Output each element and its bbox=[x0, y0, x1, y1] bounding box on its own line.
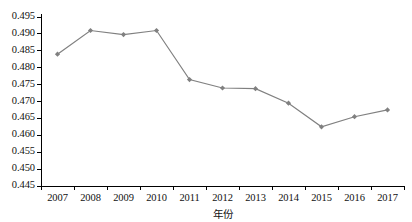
y-axis-tick-label: 0.465 bbox=[3, 111, 35, 122]
data-point-marker bbox=[352, 114, 357, 119]
y-axis-tick-label: 0.450 bbox=[3, 162, 35, 173]
line-chart: 0.4950.4900.4850.4800.4750.4700.4650.460… bbox=[0, 0, 412, 222]
x-axis-tick-marks bbox=[41, 186, 404, 190]
x-axis-tick-label: 2008 bbox=[74, 192, 107, 203]
y-axis-tick-label: 0.475 bbox=[3, 78, 35, 89]
data-point-marker bbox=[121, 32, 126, 37]
data-point-marker bbox=[253, 86, 258, 91]
x-axis-tick-label: 2014 bbox=[272, 192, 305, 203]
y-axis-tick-label: 0.460 bbox=[3, 128, 35, 139]
x-axis-tick-label: 2012 bbox=[206, 192, 239, 203]
axes-group bbox=[41, 14, 404, 186]
x-axis-title: 年份 bbox=[206, 206, 239, 221]
x-axis-tick-label: 2011 bbox=[173, 192, 206, 203]
data-point-markers bbox=[55, 28, 390, 130]
y-axis-tick-label: 0.455 bbox=[3, 145, 35, 156]
y-axis-tick-label: 0.485 bbox=[3, 44, 35, 55]
x-axis-tick-label: 2007 bbox=[41, 192, 74, 203]
x-axis-tick-label: 2016 bbox=[338, 192, 371, 203]
y-axis-tick-label: 0.490 bbox=[3, 27, 35, 38]
y-axis-tick-marks bbox=[37, 17, 41, 186]
x-axis-tick-label: 2010 bbox=[140, 192, 173, 203]
y-axis-tick-label: 0.495 bbox=[3, 10, 35, 21]
data-series-line bbox=[58, 31, 388, 127]
chart-plot-area bbox=[0, 0, 412, 222]
data-point-marker bbox=[220, 85, 225, 90]
y-axis-tick-label: 0.480 bbox=[3, 61, 35, 72]
x-axis-tick-label: 2009 bbox=[107, 192, 140, 203]
y-axis-tick-label: 0.445 bbox=[3, 179, 35, 190]
data-point-marker bbox=[385, 107, 390, 112]
x-axis-tick-label: 2015 bbox=[305, 192, 338, 203]
y-axis-tick-label: 0.470 bbox=[3, 95, 35, 106]
x-axis-tick-label: 2013 bbox=[239, 192, 272, 203]
x-axis-tick-label: 2017 bbox=[371, 192, 404, 203]
